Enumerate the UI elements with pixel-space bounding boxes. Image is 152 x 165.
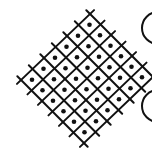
cell-dot [63, 66, 68, 71]
cell-dot [83, 108, 88, 113]
cell-dot [98, 33, 103, 38]
cell-dot [84, 87, 89, 92]
cell-dot [95, 97, 100, 102]
cell-dot [106, 86, 111, 91]
cell-dot [64, 44, 69, 49]
partial-circle [142, 90, 152, 122]
cell-dot [82, 130, 87, 135]
cell-dot [40, 88, 45, 93]
cell-dot [41, 66, 46, 71]
cell-dot [76, 33, 81, 38]
sketch-canvas [0, 0, 152, 165]
cell-dot [118, 75, 123, 80]
cell-dot [140, 75, 145, 80]
cell-dot [51, 98, 56, 103]
partial-circle [142, 12, 152, 44]
cell-dot [119, 54, 124, 59]
cell-dot [72, 119, 77, 124]
cell-dot [105, 108, 110, 113]
cell-dot [96, 76, 101, 81]
cell-dot [117, 97, 122, 102]
cell-dot [75, 55, 80, 60]
cell-dot [73, 98, 78, 103]
cell-dot [97, 54, 102, 59]
cell-dot [86, 44, 91, 49]
cell-dot [85, 65, 90, 70]
cell-dot [62, 87, 67, 92]
cell-dot [107, 65, 112, 70]
cell-dot [53, 55, 58, 60]
cell-dot [129, 64, 134, 69]
cell-dot [74, 76, 79, 81]
cell-dot [30, 77, 35, 82]
cell-dot [87, 22, 92, 27]
cell-dot [94, 119, 99, 124]
cell-dot [52, 77, 57, 82]
cell-dot [61, 109, 66, 114]
cell-dot [108, 43, 113, 48]
cell-dot [128, 86, 133, 91]
diamond-grid-lines [17, 10, 152, 147]
